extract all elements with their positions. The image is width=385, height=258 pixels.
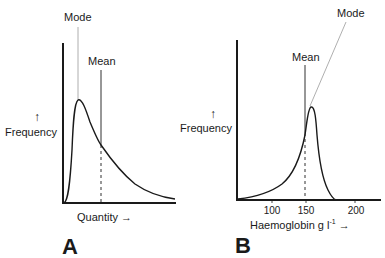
panel-a-y-arrow-icon: ↑: [34, 111, 40, 123]
panel-b-tick-label-200: 200: [348, 206, 365, 216]
panel-a-mode-label: Mode: [64, 12, 92, 23]
panel-b-letter: B: [235, 235, 251, 257]
panel-b-distribution-curve: [238, 107, 336, 200]
panel-b-plot: [236, 22, 381, 203]
panel-b-tick-label-150: 150: [298, 206, 315, 216]
panel-a-letter: A: [62, 236, 78, 258]
panel-a-mean-label: Mean: [88, 56, 116, 67]
panel-a-x-label: Quantity →: [77, 212, 132, 223]
panel-b-x-label-text: Haemoglobin g l: [250, 219, 330, 231]
panel-b-y-label: Frequency: [180, 123, 232, 134]
panel-b-y-arrow-icon: ↑: [210, 108, 216, 120]
panel-b-mean-label: Mean: [292, 52, 320, 63]
panel-a-distribution-curve: [64, 100, 175, 203]
panel-b-mode-line: [310, 22, 346, 106]
panel-b-x-arrow-icon: →: [339, 219, 350, 231]
panel-a-x-label-text: Quantity: [77, 211, 118, 223]
panel-b-tick-label-100: 100: [264, 206, 281, 216]
panel-b-x-label: Haemoglobin g l-1 →: [250, 218, 350, 231]
panel-a-plot: [62, 27, 176, 204]
panel-b-x-label-unit-exponent: -1: [330, 218, 336, 225]
panel-b-mode-label: Mode: [337, 8, 365, 19]
panel-a-y-label: Frequency: [5, 127, 57, 138]
panel-a-x-arrow-icon: →: [121, 211, 132, 223]
